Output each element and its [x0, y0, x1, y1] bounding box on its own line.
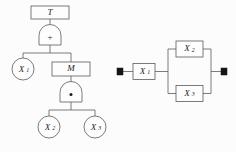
block-x1-label: X	[139, 66, 146, 76]
block-x3-label: X	[183, 88, 190, 98]
block-x3-subscript: 3	[191, 91, 195, 97]
block-x2-subscript: 2	[192, 47, 195, 53]
block-x2-label: X	[183, 43, 190, 53]
basic-event-x3-subscript: 3	[97, 125, 101, 131]
diagram-svg: T + X 1 M X 2 X 3	[0, 0, 236, 152]
basic-event-x2-label: X	[44, 122, 51, 132]
basic-event-x3-label: X	[90, 122, 97, 132]
basic-event-x1-subscript: 1	[26, 67, 29, 73]
and-gate-shape[interactable]	[60, 82, 82, 103]
intermediate-event-label: M	[66, 63, 75, 73]
basic-event-x1-label: X	[18, 64, 25, 74]
or-gate-glyph: +	[47, 32, 52, 42]
terminal-right[interactable]	[221, 68, 227, 75]
basic-event-x2-subscript: 2	[52, 125, 55, 131]
terminal-left[interactable]	[117, 68, 123, 75]
and-gate-glyph	[70, 93, 73, 96]
figure-canvas: T + X 1 M X 2 X 3	[0, 0, 236, 152]
block-x1-subscript: 1	[147, 69, 150, 75]
